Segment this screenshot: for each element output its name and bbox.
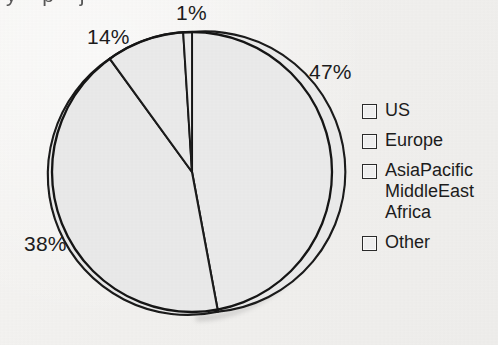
pie-value-label-europe: 38% [24,232,67,256]
legend-item-label: US [385,100,410,121]
legend-swatch-icon [362,236,377,251]
legend-item-asiapacific-middleeast-africa: AsiaPacific MiddleEast Africa [362,160,494,223]
legend-item-label: Other [385,232,430,253]
chart-legend: US Europe AsiaPacific MiddleEast Africa … [362,100,494,262]
legend-item-label: Europe [385,130,443,151]
legend-item-label: AsiaPacific MiddleEast Africa [385,160,474,223]
legend-item-us: US [362,100,494,121]
pie-chart-figure: y p j 1% 14% 47% [0,0,498,345]
pie-value-label-other: 1% [176,1,207,25]
legend-item-europe: Europe [362,130,494,151]
legend-swatch-icon [362,134,377,149]
legend-item-other: Other [362,232,494,253]
legend-swatch-icon [362,164,377,179]
pie-value-label-asia: 14% [87,25,130,49]
legend-swatch-icon [362,104,377,119]
pie-value-label-us: 47% [309,60,352,84]
